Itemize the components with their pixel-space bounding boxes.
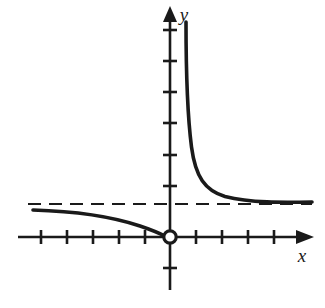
open-point-hole-icon <box>164 231 176 243</box>
x-axis-label: x <box>297 245 307 266</box>
y-axis-arrow-icon <box>163 6 177 22</box>
x-axis-arrow-icon <box>296 230 314 244</box>
graph-canvas: x y <box>0 0 325 308</box>
curve-right-branch <box>186 22 312 202</box>
graph-figure: x y <box>0 0 325 308</box>
curve-left-branch <box>33 210 167 237</box>
y-axis-label: y <box>178 4 189 25</box>
